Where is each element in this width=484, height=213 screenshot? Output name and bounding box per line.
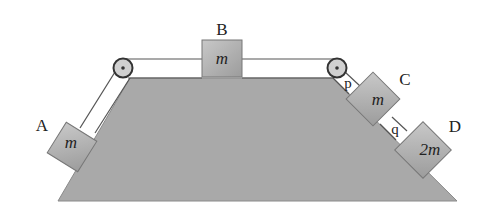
block-b: m — [202, 40, 242, 77]
block-c-mass: m — [372, 90, 384, 109]
pulley-right-axle — [335, 66, 339, 70]
block-a-label: A — [36, 116, 49, 135]
block-b-label: B — [216, 20, 227, 39]
physics-diagram: m B m A m C 2m D p q — [0, 0, 484, 213]
pulley-left-axle — [121, 66, 125, 70]
block-b-mass: m — [216, 49, 228, 68]
block-c-label: C — [399, 70, 410, 89]
block-d-mass: 2m — [420, 140, 441, 159]
block-a-mass: m — [65, 133, 77, 152]
pulley-left — [114, 59, 133, 78]
block-d-label: D — [449, 117, 461, 136]
string-p-label: p — [344, 75, 352, 91]
string-q-label: q — [391, 121, 399, 137]
